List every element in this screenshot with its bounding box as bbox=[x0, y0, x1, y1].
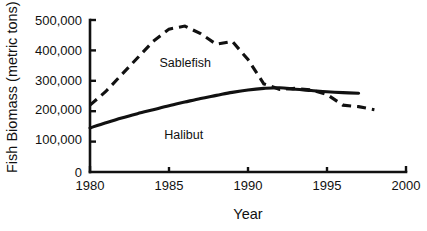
series-label-sablefish: Sablefish bbox=[160, 56, 211, 70]
series-line-sablefish bbox=[90, 26, 374, 110]
x-tick-label-1980: 1980 bbox=[76, 178, 105, 193]
y-tick-label-500000: 500,000 bbox=[35, 13, 82, 28]
x-tick-label-1985: 1985 bbox=[155, 178, 184, 193]
y-axis-title: Fish Biomass (metric tons) bbox=[4, 1, 20, 173]
series-label-halibut: Halibut bbox=[164, 128, 203, 142]
x-tick-label-1995: 1995 bbox=[313, 178, 342, 193]
y-tick-label-300000: 300,000 bbox=[35, 73, 82, 88]
x-axis-title: Year bbox=[233, 206, 262, 222]
x-tick-label-2000: 2000 bbox=[392, 178, 421, 193]
chart-canvas: Fish Biomass (metric tons) 500,000 400,0… bbox=[0, 0, 427, 231]
y-tick-label-200000: 200,000 bbox=[35, 102, 82, 117]
y-tick-label-100000: 100,000 bbox=[35, 132, 82, 147]
y-tick-label-400000: 400,000 bbox=[35, 43, 82, 58]
x-tick-label-1990: 1990 bbox=[234, 178, 263, 193]
series-line-halibut bbox=[90, 88, 359, 128]
fish-biomass-chart: Fish Biomass (metric tons) 500,000 400,0… bbox=[0, 0, 427, 231]
